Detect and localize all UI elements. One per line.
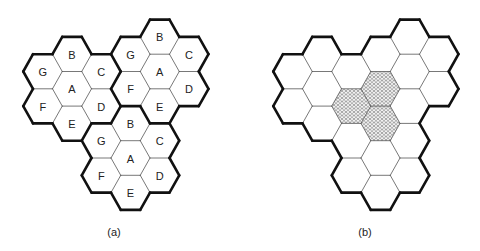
cell-label-f: F — [39, 101, 46, 113]
cell-label-b: B — [156, 31, 163, 43]
cell-label-e: E — [127, 187, 134, 199]
cell-label-a: A — [156, 66, 164, 78]
cell-label-b: B — [127, 118, 134, 130]
cell-label-g: G — [38, 66, 47, 78]
cell-label-c: C — [185, 49, 193, 61]
cell-label-c: C — [97, 66, 105, 78]
cell-label-e: E — [68, 118, 75, 130]
panel-b-cochannel-cells: (b) — [273, 20, 458, 238]
cell-label-e: E — [156, 101, 163, 113]
cellular-reuse-diagram: ABCDEFGABCDEFGABCDEFG (a) (b) — [0, 0, 480, 251]
cell-label-f: F — [127, 83, 134, 95]
cell-label-g: G — [126, 49, 135, 61]
cell-label-d: D — [156, 170, 164, 182]
cell-label-d: D — [97, 101, 105, 113]
cell-label-a: A — [68, 83, 76, 95]
cell-label-c: C — [156, 135, 164, 147]
panel-a-seven-cell-clusters: ABCDEFGABCDEFGABCDEFG (a) — [23, 20, 208, 238]
cell-label-b: B — [68, 49, 75, 61]
panel-b-caption: (b) — [358, 226, 371, 238]
cell-label-d: D — [185, 83, 193, 95]
cell-label-g: G — [97, 135, 106, 147]
cell-label-f: F — [98, 170, 105, 182]
panel-a-caption: (a) — [107, 226, 120, 238]
cell-label-a: A — [127, 153, 135, 165]
